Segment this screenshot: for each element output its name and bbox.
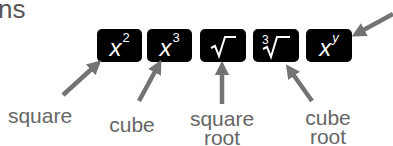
label-cube: cube [102,115,162,134]
label-square-root: square root [186,109,258,146]
label-line: root [186,128,258,146]
label-cube-root: cube root [298,108,358,146]
label-line: root [298,127,358,146]
label-square: square [4,106,76,125]
arrow-icon [63,14,393,104]
